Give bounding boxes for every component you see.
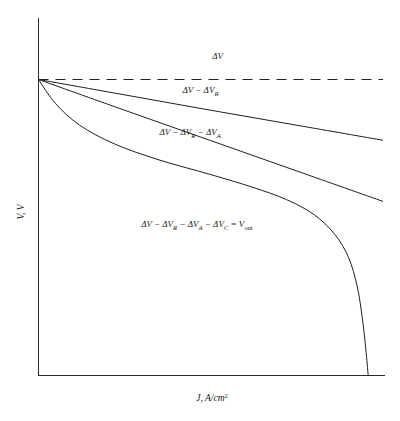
x-axis-title: J, A/cm2 [196, 392, 228, 403]
annotations-layer: ΔVΔV − ΔVRΔV − ΔVR − ΔVAΔV − ΔVR − ΔVA −… [140, 51, 253, 231]
annotation-dv-dvr-dva: ΔV − ΔVR − ΔVA [158, 127, 221, 139]
polarization-chart: ΔVΔV − ΔVRΔV − ΔVR − ΔVAΔV − ΔVR − ΔVA −… [0, 0, 400, 421]
annotation-dv-dvr: ΔV − ΔVR [181, 85, 218, 97]
y-axis-title-group: V, V [16, 203, 26, 219]
x-axis-title-group: J, A/cm2 [196, 392, 228, 403]
curve-dV-dVR-dVA [39, 79, 384, 201]
polarization-figure: ΔVΔV − ΔVRΔV − ΔVR − ΔVAΔV − ΔVR − ΔVA −… [0, 0, 400, 421]
y-axis-title: V, V [16, 203, 26, 219]
annotation-dv: ΔV [211, 51, 224, 61]
axes [39, 18, 386, 376]
annotation-vout: ΔV − ΔVR − ΔVA − ΔVC = Vout [140, 219, 253, 231]
